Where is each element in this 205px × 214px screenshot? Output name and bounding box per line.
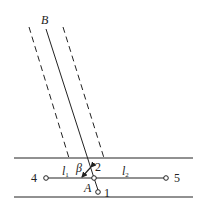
node-A — [92, 176, 97, 181]
beta-arrow — [82, 167, 91, 177]
label-B: B — [41, 13, 49, 27]
label-node-5: 5 — [174, 171, 180, 185]
right-dashed-line — [63, 27, 104, 158]
node-5 — [164, 176, 169, 181]
node-1 — [96, 190, 101, 195]
label-A: A — [83, 181, 92, 195]
node-4 — [44, 176, 49, 181]
left-dashed-line — [29, 27, 69, 158]
label-node-4: 4 — [31, 171, 37, 185]
label-beta: β — [75, 161, 82, 175]
label-node-2: 2 — [95, 160, 101, 174]
label-node-1: 1 — [104, 186, 110, 200]
diagram-canvas: B A β 2 1 4 5 l1 l2 — [0, 0, 205, 214]
label-l2: l2 — [122, 164, 129, 179]
label-l1: l1 — [62, 164, 69, 179]
